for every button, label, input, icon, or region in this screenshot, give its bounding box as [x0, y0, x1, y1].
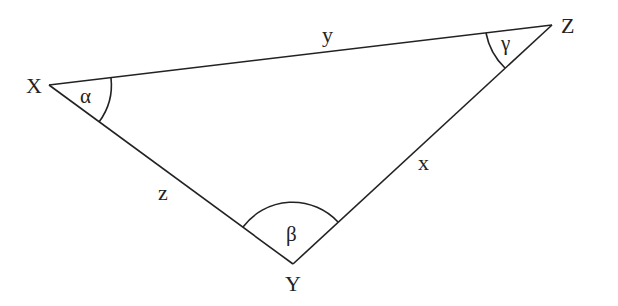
vertex-y-label: Y	[285, 271, 301, 296]
side-y-label: y	[322, 22, 333, 47]
side-x-label: x	[418, 150, 429, 175]
angle-alpha-arc	[99, 78, 111, 122]
side-x-line	[293, 25, 552, 264]
triangle-diagram: X Z Y y z x α β γ	[0, 0, 618, 306]
angle-alpha-label: α	[80, 84, 91, 108]
side-z-label: z	[158, 180, 168, 205]
angle-beta-label: β	[286, 222, 297, 246]
vertex-z-label: Z	[561, 13, 574, 38]
angle-gamma-label: γ	[500, 31, 510, 55]
vertex-x-label: X	[26, 73, 42, 98]
side-y-line	[49, 25, 552, 85]
side-z-line	[49, 85, 293, 264]
